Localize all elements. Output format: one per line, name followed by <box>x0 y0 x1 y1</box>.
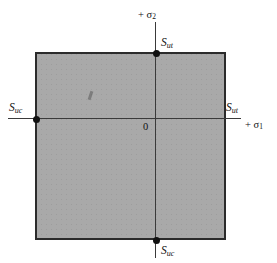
failure-envelope-figure: + σ2 + σ1 Sut Sut Suc Suc 0 <box>0 0 277 263</box>
label-sut-right-subscript: ut <box>232 106 238 115</box>
label-suc-left: Suc <box>9 102 22 115</box>
horizontal-axis-sigma1 <box>8 118 241 119</box>
axis-label-sigma1-subscript: 1 <box>259 122 263 131</box>
point-sut-top <box>153 50 160 57</box>
vertical-axis-sigma2 <box>155 22 156 258</box>
label-sut-right: Sut <box>226 102 238 115</box>
label-suc-left-subscript: uc <box>15 106 23 115</box>
label-sut-top: Sut <box>161 37 173 50</box>
origin-label: 0 <box>143 122 148 133</box>
label-suc-bottom-subscript: uc <box>167 249 175 258</box>
point-suc-bottom <box>153 237 160 244</box>
axis-label-sigma1: + σ1 <box>245 120 263 131</box>
point-suc-left <box>33 116 40 123</box>
axis-label-sigma2-subscript: 2 <box>152 12 156 21</box>
label-sut-top-subscript: ut <box>167 41 173 50</box>
axis-label-sigma2-prefix: + <box>138 9 147 20</box>
envelope-texture <box>37 54 224 238</box>
axis-label-sigma2: + σ2 <box>138 10 156 21</box>
label-suc-bottom: Suc <box>161 245 174 258</box>
failure-envelope-region <box>35 52 226 240</box>
axis-label-sigma1-prefix: + <box>245 119 254 130</box>
